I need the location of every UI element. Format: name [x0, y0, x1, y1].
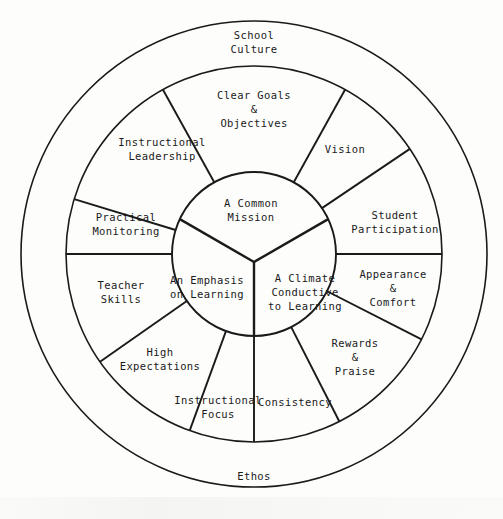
core-divider-2 — [254, 219, 328, 262]
segment-high-expectations-label: HighExpectations — [120, 346, 201, 372]
segment-instructional-focus-label: InstructionalFocus — [174, 394, 261, 420]
core-a-climate-conductive-to-learning-label: A ClimateConductiveto Learning — [268, 272, 342, 312]
segment-divider-0 — [294, 90, 345, 183]
core-an-emphasis-on-learning-label: An Emphasison Learning — [170, 274, 244, 300]
segment-divider-4 — [100, 301, 187, 362]
segment-teacher-skills-label: TeacherSkills — [97, 279, 144, 305]
outer-ethos-label: Ethos — [237, 470, 271, 482]
core-a-common-mission-label: A CommonMission — [224, 197, 278, 223]
segment-practical-monitoring-label: PracticalMonitoring — [92, 211, 159, 237]
segment-vision-label: Vision — [325, 143, 365, 155]
outer-school-culture-label: SchoolCulture — [230, 29, 277, 55]
segment-student-participation-label: StudentParticipation — [351, 209, 438, 235]
core-labels: A CommonMissionAn Emphasison LearningA C… — [170, 197, 342, 312]
segment-rewards-praise-label: Rewards&Praise — [331, 337, 378, 377]
segment-consistency-label: Consistency — [258, 396, 332, 408]
core-divider-1 — [180, 219, 254, 262]
segment-divider-10 — [322, 149, 410, 208]
wheel-svg: SchoolCultureEthos Clear Goals&Objective… — [0, 0, 503, 519]
segment-appearance-comfort-label: Appearance&Comfort — [359, 268, 426, 308]
segment-clear-goals-objectives-label: Clear Goals&Objectives — [217, 89, 291, 129]
school-culture-wheel-diagram: SchoolCultureEthos Clear Goals&Objective… — [0, 0, 503, 519]
segment-instructional-leadership-label: InstructionalLeadership — [118, 136, 205, 162]
